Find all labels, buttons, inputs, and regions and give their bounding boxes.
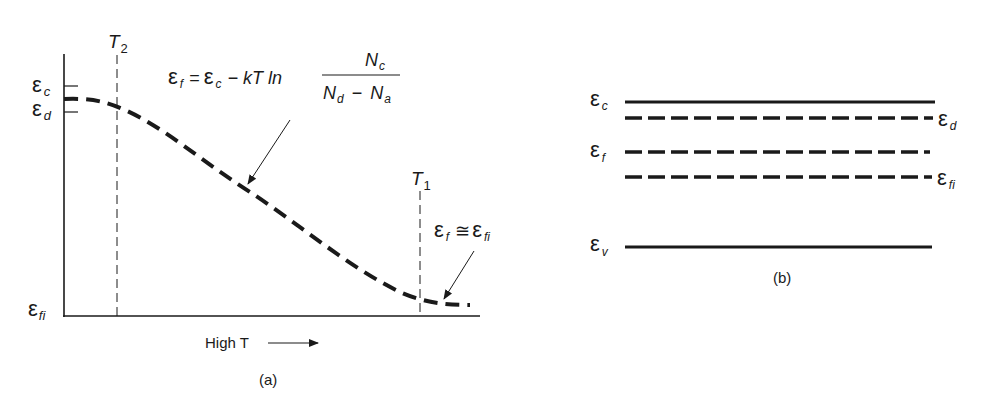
- svg-text:εf=εc− kT ln: εf=εc− kT ln: [168, 64, 282, 91]
- pointer-arrow-high-t: [444, 251, 474, 299]
- label-ed: εd: [32, 96, 52, 123]
- diagram-canvas: εc εd εfi T2 T1 εf=εc− kT ln Nc: [0, 0, 991, 406]
- panel-a: εc εd εfi T2 T1 εf=εc− kT ln Nc: [28, 31, 490, 388]
- label-b-ev: εv: [590, 231, 609, 259]
- label-ec: εc: [32, 72, 51, 99]
- equation-high-temperature: εf≅εfi: [434, 217, 490, 244]
- svg-text:Nd−Na: Nd−Na: [323, 83, 391, 106]
- caption-a: (a): [259, 371, 277, 388]
- equation-fermi-level: εf=εc− kT ln Nc Nd−Na: [168, 50, 400, 106]
- x-axis-label: High T: [205, 334, 249, 351]
- label-b-ed: εd: [938, 106, 957, 133]
- label-b-ef: εf: [590, 137, 607, 165]
- panel-b: εc εd εf εfi εv (b): [590, 86, 957, 286]
- svg-text:Nc: Nc: [365, 50, 385, 73]
- fermi-level-curve: [64, 99, 470, 305]
- label-efi: εfi: [28, 296, 46, 323]
- pointer-arrow-main: [248, 120, 290, 184]
- label-t1: T1: [411, 168, 431, 193]
- label-t2: T2: [108, 31, 128, 56]
- label-b-efi: εfi: [937, 165, 955, 192]
- svg-text:εf≅εfi: εf≅εfi: [434, 217, 490, 244]
- caption-b: (b): [773, 269, 791, 286]
- label-b-ec: εc: [590, 86, 608, 113]
